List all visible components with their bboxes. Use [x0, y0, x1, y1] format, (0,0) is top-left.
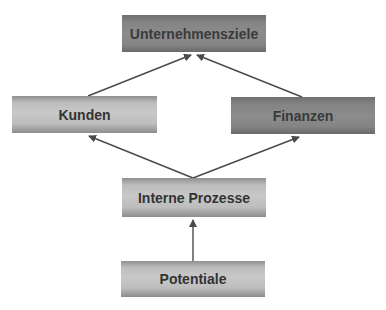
- node-finanzen: Finanzen: [231, 97, 375, 134]
- arrow-finanzen-to-unternehmensziele: [197, 55, 302, 97]
- node-potentiale: Potentiale: [121, 261, 265, 297]
- node-label: Potentiale: [160, 271, 227, 287]
- node-label: Unternehmensziele: [130, 26, 258, 42]
- node-label: Kunden: [58, 107, 110, 123]
- node-kunden: Kunden: [12, 96, 157, 133]
- arrow-kunden-to-unternehmensziele: [88, 55, 191, 96]
- node-label: Interne Prozesse: [138, 190, 250, 206]
- arrow-interne-prozesse-to-kunden: [89, 136, 193, 178]
- arrow-interne-prozesse-to-finanzen: [193, 137, 299, 178]
- node-interne-prozesse: Interne Prozesse: [122, 178, 266, 217]
- node-label: Finanzen: [273, 108, 334, 124]
- diagram-canvas: Unternehmensziele Kunden Finanzen Intern…: [0, 0, 386, 310]
- node-unternehmensziele: Unternehmensziele: [122, 15, 266, 52]
